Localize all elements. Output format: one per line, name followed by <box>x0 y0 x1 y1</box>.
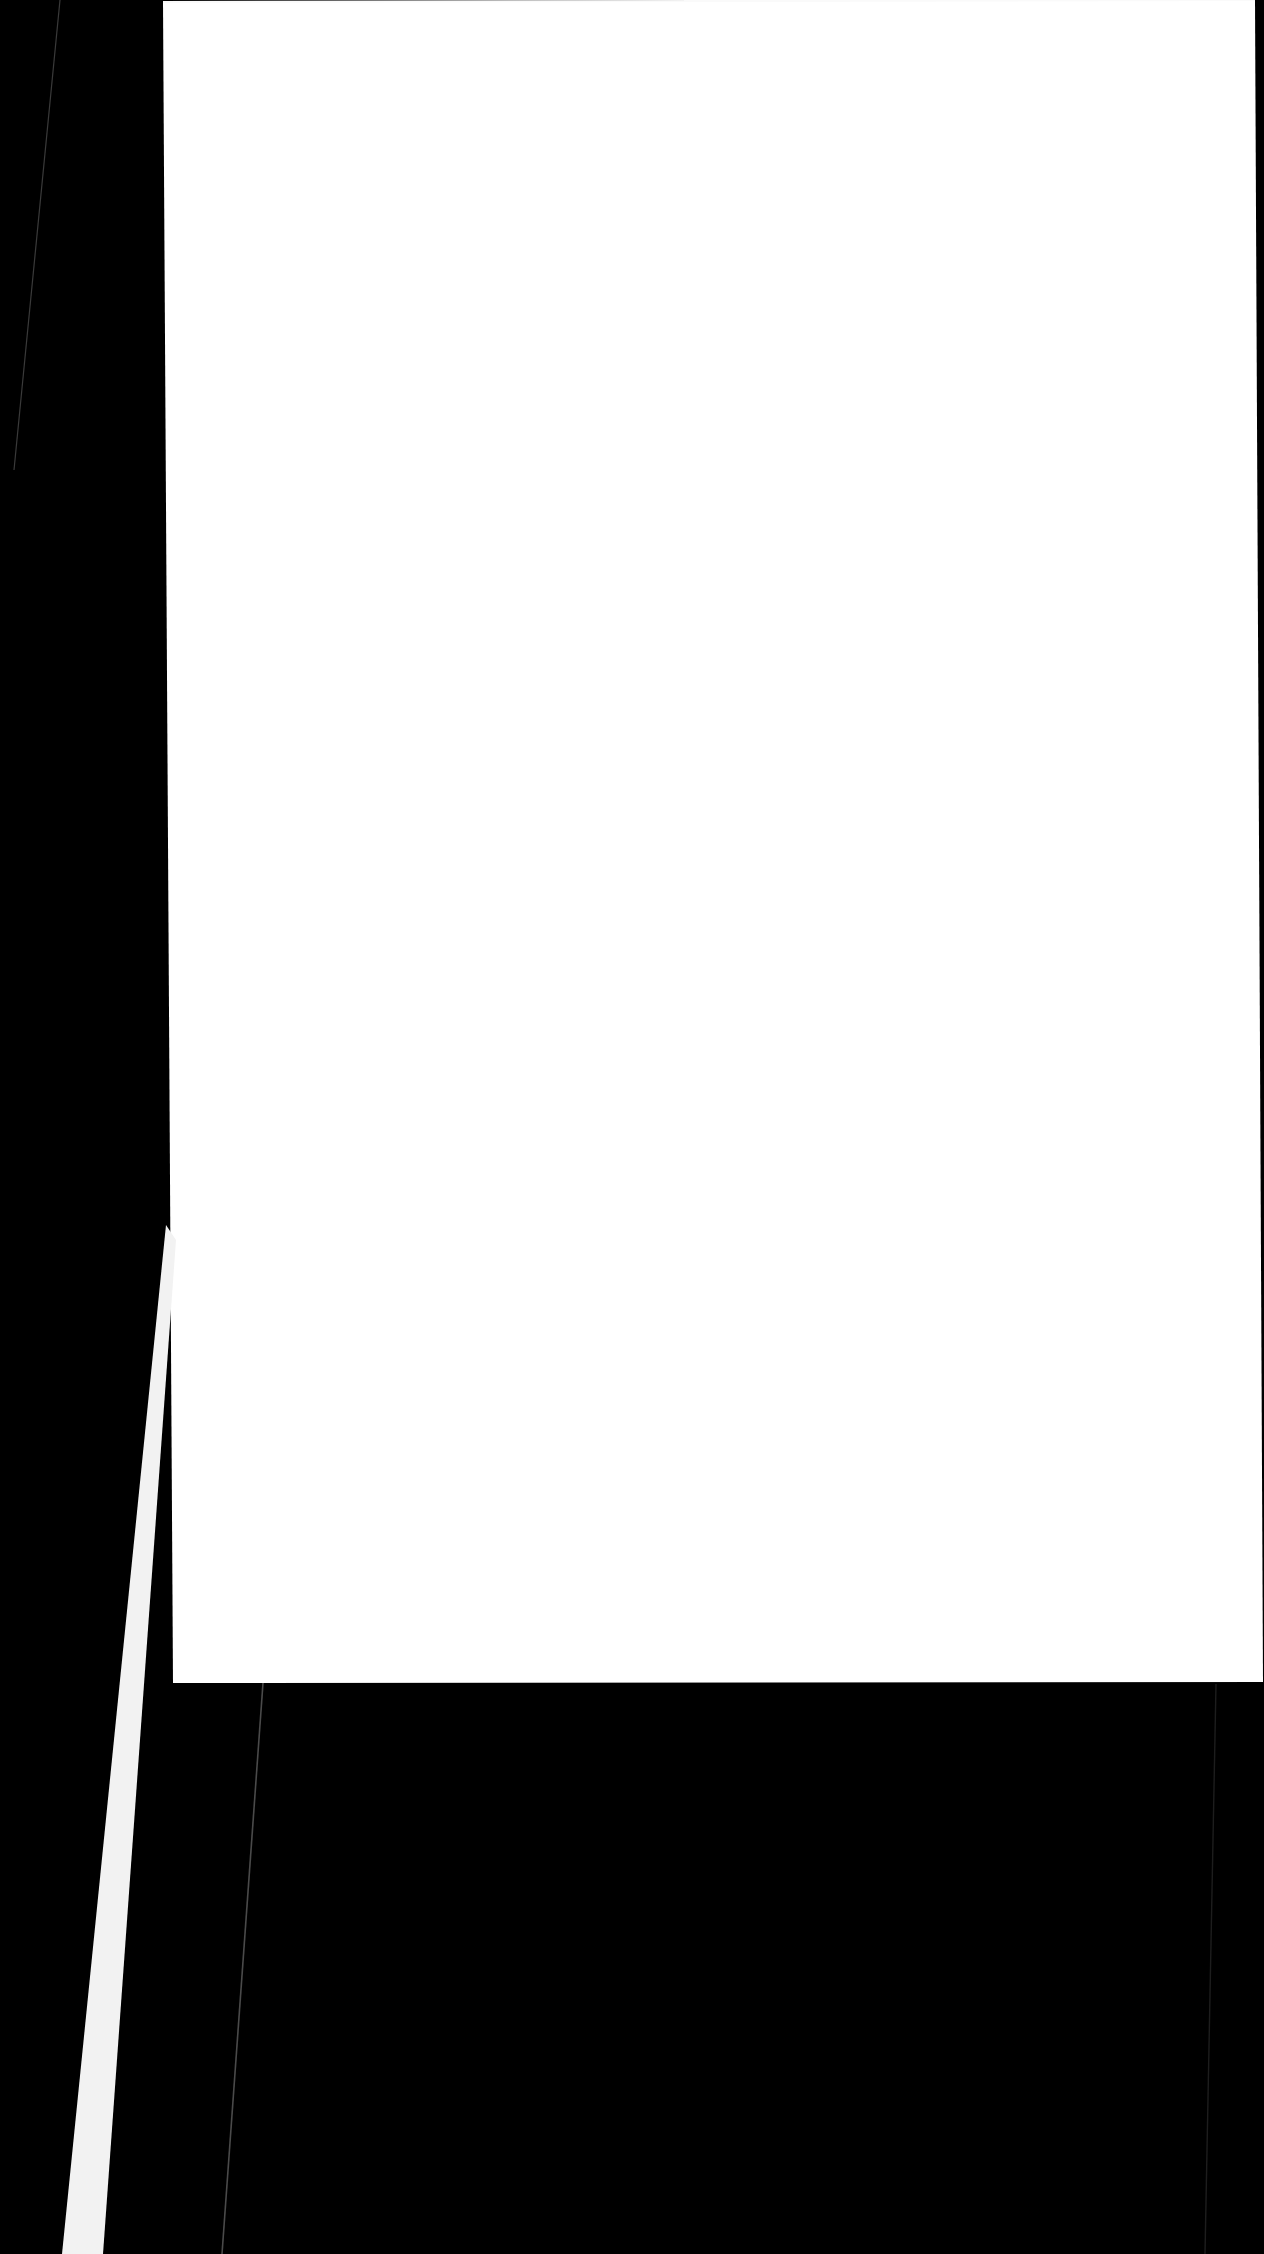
page-content-area <box>190 40 1230 1640</box>
screenshot-canvas <box>0 0 1264 2254</box>
